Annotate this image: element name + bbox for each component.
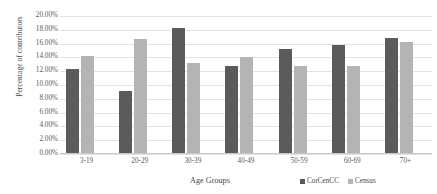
x-axis-tick-label: 20-29 — [110, 157, 170, 166]
x-axis-tick-label: 60-69 — [322, 157, 382, 166]
y-axis-tick-label: 6.00% — [20, 109, 58, 116]
y-axis-tick-label: 8.00% — [20, 95, 58, 102]
bar — [81, 56, 94, 154]
y-axis-tick-label: 10.00% — [20, 81, 58, 88]
bar — [294, 66, 307, 154]
y-axis-tick-label: 2.00% — [20, 137, 58, 144]
x-axis-line — [60, 153, 432, 154]
x-axis-title: Age Groups — [150, 176, 270, 185]
bar — [66, 69, 79, 154]
legend-swatch-icon — [300, 179, 305, 184]
y-axis-tick-labels: 0.00%2.00%4.00%6.00%8.00%10.00%12.00%14.… — [20, 16, 58, 154]
legend-label: CorCenCC — [307, 177, 339, 185]
bar — [279, 49, 292, 154]
bar-group — [379, 16, 432, 154]
x-axis-tick-label: 30-39 — [163, 157, 223, 166]
x-axis-tick-label: 40-49 — [216, 157, 276, 166]
bar — [119, 91, 132, 154]
bar-group — [166, 16, 219, 154]
bar-group — [326, 16, 379, 154]
plot-area — [60, 16, 432, 154]
y-axis-tick-label: 14.00% — [20, 54, 58, 61]
legend-item[interactable]: Census — [348, 177, 376, 185]
y-axis-tick-label: 18.00% — [20, 26, 58, 33]
y-axis-tick-label: 20.00% — [20, 12, 58, 19]
bar — [225, 66, 238, 154]
bar — [172, 28, 185, 154]
bar-group — [60, 16, 113, 154]
bar — [385, 38, 398, 154]
y-axis-tick-label: 16.00% — [20, 40, 58, 47]
legend-label: Census — [355, 177, 376, 185]
legend-item[interactable]: CorCenCC — [300, 177, 339, 185]
x-axis-tick-label: 3-19 — [57, 157, 117, 166]
gridline — [60, 154, 432, 155]
x-axis-tick-labels: 3-1920-2930-3940-4950-5960-6970+ — [60, 157, 432, 169]
x-axis-tick-label: 70+ — [375, 157, 435, 166]
y-axis-tick-label: 0.00% — [20, 150, 58, 157]
y-axis-tick-label: 4.00% — [20, 123, 58, 130]
bar — [332, 45, 345, 154]
bars-layer — [60, 16, 432, 154]
y-axis-tick-label: 12.00% — [20, 68, 58, 75]
bar-group — [219, 16, 272, 154]
x-axis-tick-label: 50-59 — [269, 157, 329, 166]
chart-legend: CorCenCCCensus — [300, 177, 376, 185]
bar-chart: Percentage of contributors 0.00%2.00%4.0… — [0, 0, 437, 194]
bar-group — [273, 16, 326, 154]
bar — [400, 42, 413, 154]
bar — [134, 39, 147, 154]
legend-swatch-icon — [348, 179, 353, 184]
bar-group — [113, 16, 166, 154]
bar — [187, 63, 200, 154]
bar — [347, 66, 360, 154]
bar — [240, 57, 253, 154]
